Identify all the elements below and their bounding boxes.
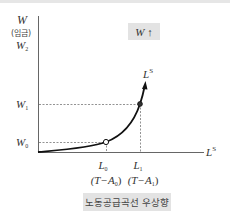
curve-arrowhead	[142, 81, 148, 90]
labor-paren-l0: (T−A0)	[91, 174, 122, 187]
labor-supply-diagram: W ↑ W (임금) W2 W1 W0 LS LS L0 (T−A0) L1	[0, 0, 230, 218]
curve-label: LS	[142, 67, 153, 80]
labor-label-l0: L0	[97, 159, 107, 172]
wage-label-w2: W2	[16, 39, 28, 52]
point-w0-l0	[103, 139, 108, 144]
labor-paren-l1: (T−A1)	[128, 174, 159, 187]
x-axis-label: LS	[205, 145, 216, 158]
y-axis-label: W	[17, 13, 28, 27]
y-axis-sublabel: (임금)	[11, 29, 31, 38]
caption-text: 노동공급곡선 우상향	[85, 197, 169, 208]
wage-label-w1: W1	[16, 98, 28, 111]
wage-label-w0: W0	[16, 136, 28, 149]
annotation-text: W ↑	[135, 26, 152, 38]
point-w1-l1	[138, 102, 143, 107]
labor-label-l1: L1	[132, 159, 142, 172]
